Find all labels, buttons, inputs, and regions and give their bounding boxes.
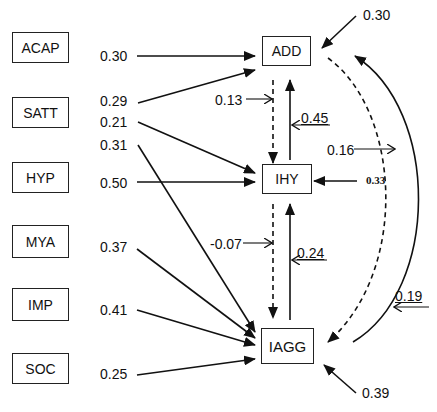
coef-hyp-ihy: 0.50 bbox=[100, 176, 127, 190]
coef-add-ihy: 0.13 bbox=[215, 93, 242, 107]
node-add: ADD bbox=[262, 36, 311, 66]
node-acap: ACAP bbox=[12, 32, 69, 63]
residual-ihy: 0.33 bbox=[366, 175, 385, 186]
coef-iagg-add: 0.19 bbox=[395, 289, 422, 303]
path-soc-iagg bbox=[137, 359, 255, 375]
node-satt: SATT bbox=[12, 97, 69, 128]
coef-ihy-add: 0.45 bbox=[301, 111, 328, 125]
coef-satt-ihy: 0.21 bbox=[100, 115, 127, 129]
coef-imp-iagg: 0.41 bbox=[100, 303, 127, 317]
path-imp-iagg bbox=[137, 310, 255, 345]
coef-iagg-ihy: 0.24 bbox=[297, 246, 324, 260]
node-hyp: HYP bbox=[12, 162, 69, 193]
coef-satt-iagg: 0.31 bbox=[100, 138, 127, 152]
coef-satt-add: 0.29 bbox=[100, 94, 127, 108]
residual-iagg: 0.39 bbox=[362, 386, 389, 400]
path-mya-iagg bbox=[137, 249, 255, 338]
path-add-iagg-curved bbox=[328, 58, 386, 342]
path-satt-ihy bbox=[138, 122, 255, 173]
residual-arrow-iagg bbox=[324, 365, 356, 393]
residual-add: 0.30 bbox=[363, 8, 390, 22]
node-iagg: IAGG bbox=[261, 328, 314, 364]
coef-acap-add: 0.30 bbox=[100, 49, 127, 63]
node-mya: MYA bbox=[12, 225, 69, 258]
node-ihy: IHY bbox=[262, 164, 312, 194]
coef-soc-iagg: 0.25 bbox=[100, 367, 127, 381]
residual-arrow-add bbox=[322, 16, 356, 48]
node-imp: IMP bbox=[12, 288, 69, 321]
node-soc: SOC bbox=[12, 353, 69, 384]
coef-mya-iagg: 0.37 bbox=[100, 240, 127, 254]
coef-add-iagg: 0.16 bbox=[327, 143, 354, 157]
coef-ihy-iagg: -0.07 bbox=[210, 237, 242, 251]
